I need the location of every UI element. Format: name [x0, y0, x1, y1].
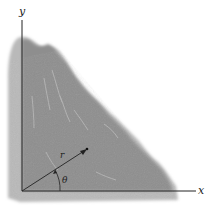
- x-axis-label: x: [198, 185, 204, 196]
- point-marker: [86, 148, 89, 151]
- pile-texture: [10, 50, 176, 200]
- theta-label: θ: [62, 176, 67, 185]
- diagram-canvas: [0, 0, 209, 218]
- y-axis-label: y: [19, 6, 25, 17]
- r-label: r: [60, 151, 64, 160]
